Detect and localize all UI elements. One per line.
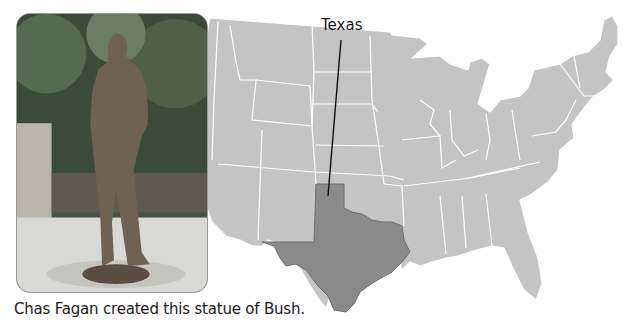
- statue-photo: [16, 13, 208, 293]
- texas-label: Texas: [321, 16, 362, 34]
- figure-caption: Chas Fagan created this statue of Bush.: [14, 300, 305, 318]
